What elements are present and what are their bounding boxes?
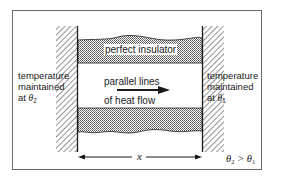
right-temp-at: at — [207, 92, 218, 103]
relation-rhs-subscript: 1 — [252, 158, 255, 165]
left-temperature-label: temperature maintained at θ2 — [18, 70, 69, 106]
relation-operator: > — [234, 153, 246, 164]
insulator-label: perfect insulator — [104, 44, 177, 55]
length-label: x — [137, 151, 142, 162]
right-temp-line2: maintained — [207, 81, 258, 92]
heat-flow-label-line1: parallel lines — [104, 76, 160, 87]
theta-2-subscript: 2 — [33, 97, 37, 104]
bottom-insulator — [78, 108, 202, 133]
right-temp-line3: at θ1 — [207, 92, 258, 106]
temperature-relation: θ2 > θ1 — [226, 153, 255, 167]
right-temp-line1: temperature — [207, 70, 258, 81]
heat-flow-label-line2: of heat flow — [104, 95, 155, 106]
heat-flow-arrow — [117, 86, 170, 94]
left-temp-line2: maintained — [18, 81, 69, 92]
left-temp-at: at — [18, 92, 29, 103]
right-temperature-label: temperature maintained at θ1 — [207, 70, 258, 106]
theta-1-subscript: 1 — [222, 97, 226, 104]
left-temp-line3: at θ2 — [18, 92, 69, 106]
left-temp-line1: temperature — [18, 70, 69, 81]
